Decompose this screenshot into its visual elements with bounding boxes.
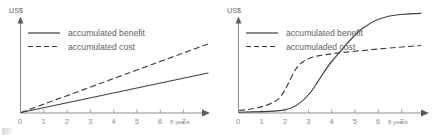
chart-panel-left: US$ 0 1 2 3 4 5 6 7 8 years accumulated … [0,0,218,135]
x-tick-label-2: 2 [65,117,69,126]
y-axis-right [236,17,242,114]
x-tick-label-0: 0 [18,117,22,126]
legend-label-benefit: accumulated benefit [286,28,364,38]
y-axis-label-right: US$ [227,6,241,15]
two-panel-chart-figure: US$ 0 1 2 3 4 5 6 7 8 years accumulated … [0,0,436,135]
y-axis-left [18,17,24,114]
x-tick-label-5: 5 [353,117,357,126]
x-axis-end-label-right: 8 years [388,119,408,125]
x-tick-label-5: 5 [135,117,139,126]
legend-left: accumulated benefit accumulated cost [28,28,146,52]
x-tick-label-3: 3 [306,117,310,126]
series-line-accumulated-benefit-left [21,73,208,113]
x-tick-label-1: 1 [42,117,46,126]
x-axis-left [21,109,211,116]
x-tick-label-4: 4 [330,117,334,126]
x-axis-end-label-left: 8 years [170,119,190,125]
series-curve-accumuladed-cost-right [239,46,421,111]
legend-label-cost: accumulated cost [68,42,135,52]
x-tick-label-3: 3 [88,117,92,126]
y-axis-label-left: US$ [9,6,23,15]
chart-panel-right: US$ 0 1 2 3 4 5 6 7 8 years accumulated … [218,0,436,135]
legend-right: accumulated benefit accumuladed cost [246,28,364,52]
legend-label-benefit: accumulated benefit [68,28,146,38]
x-axis-right [239,109,430,116]
x-tick-label-4: 4 [112,117,116,126]
x-tick-label-2: 2 [283,117,287,126]
x-tick-label-0: 0 [236,117,240,126]
x-tick-label-6: 6 [158,117,162,126]
x-tick-label-1: 1 [260,117,264,126]
legend-label-cost: accumuladed cost [286,42,356,52]
series-line-accumulated-cost-left [21,44,208,113]
x-tick-label-6: 6 [376,117,380,126]
